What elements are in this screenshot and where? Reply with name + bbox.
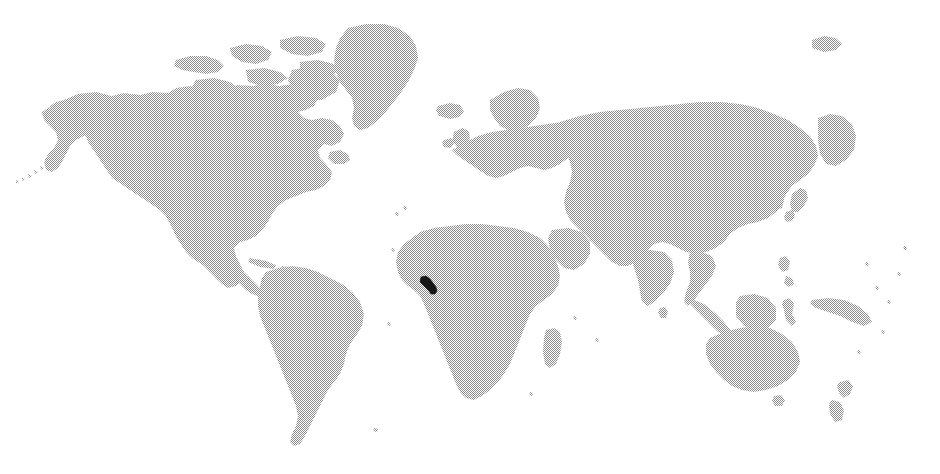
world-map-figure: World map with highlighted country Liber…: [0, 0, 940, 474]
world-map-svg: [0, 0, 940, 474]
